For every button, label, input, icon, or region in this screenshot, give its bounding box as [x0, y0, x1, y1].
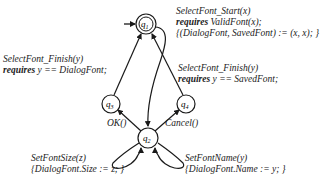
label-select-font-start: SelectFont_Start(x) requires ValidFont(x… — [176, 6, 319, 39]
label-line: SelectFont_Finish(y) — [178, 63, 278, 74]
label-ok: OK() — [107, 118, 127, 129]
label-text: y == SavedFont; — [210, 74, 278, 84]
label-line: SelectFont_Start(x) — [176, 6, 319, 17]
label-line: OK() — [107, 118, 127, 129]
label-line: requires ValidFont(x); — [176, 17, 319, 28]
keyword-requires: requires — [178, 74, 210, 84]
label-select-font-finish-saved: SelectFont_Finish(y) requires y == Saved… — [178, 63, 278, 85]
label-line: SetFontName(y) — [185, 153, 286, 164]
label-cancel: Cancel() — [165, 118, 198, 129]
label-line: {DialogFont.Name := y; } — [185, 164, 286, 175]
state-q1: q1 — [136, 14, 156, 34]
label-line: requires y == DialogFont; — [3, 65, 107, 76]
self-loop-right — [155, 143, 184, 168]
state-q2: q2 — [138, 128, 158, 148]
label-select-font-finish-dialog: SelectFont_Finish(y) requires y == Dialo… — [3, 54, 107, 76]
label-set-font-size: SetFontSize(z) {DialogFont.Size := z; } — [31, 153, 124, 175]
state-q3: q3 — [102, 95, 120, 113]
edge-q3-q1 — [114, 34, 141, 95]
label-line: {(DialogFont, SavedFont) := (x, x); } — [176, 28, 319, 39]
label-line: {DialogFont.Size := z; } — [31, 164, 124, 175]
label-text: y == DialogFont; — [35, 65, 107, 75]
label-line: Cancel() — [165, 118, 198, 129]
keyword-requires: requires — [176, 17, 208, 27]
label-set-font-name: SetFontName(y) {DialogFont.Name := y; } — [185, 153, 286, 175]
state-q4: q4 — [177, 95, 195, 113]
label-line: requires y == SavedFont; — [178, 74, 278, 85]
keyword-requires: requires — [3, 65, 35, 75]
label-line: SelectFont_Finish(y) — [3, 54, 107, 65]
label-text: ValidFont(x); — [208, 17, 262, 27]
label-line: SetFontSize(z) — [31, 153, 124, 164]
